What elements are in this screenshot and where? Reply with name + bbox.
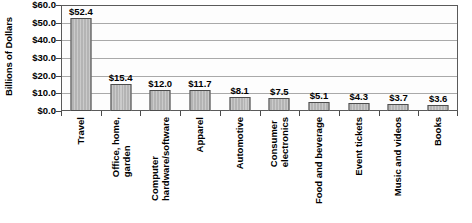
- bar-slot: $5.1: [299, 5, 339, 111]
- x-axis-category-label-line: Books: [432, 117, 443, 146]
- x-axis-tick-mark: [61, 111, 62, 116]
- x-axis-category-label-text: Event tickets: [353, 117, 364, 176]
- x-axis-category-label: Automotive: [220, 117, 260, 221]
- x-axis-category-label: Music and videos: [379, 117, 419, 221]
- x-axis-category-label-text: Food and beverage: [314, 117, 325, 204]
- bar-value-label: $52.4: [69, 6, 93, 17]
- bar-value-label: $3.7: [389, 92, 408, 103]
- bars-layer: $52.4$15.4$12.0$11.7$8.1$7.5$5.1$4.3$3.7…: [61, 5, 458, 111]
- x-axis-category-label-line: Travel: [75, 117, 86, 144]
- y-axis-tick-mark: [56, 111, 61, 112]
- bar[interactable]: [70, 18, 91, 111]
- x-axis-category-label-text: Music and videos: [393, 117, 404, 196]
- y-axis-tick-mark: [56, 93, 61, 94]
- x-axis-tick-mark: [299, 111, 300, 116]
- y-axis-tick-mark: [56, 5, 61, 6]
- bar-slot: $52.4: [61, 5, 101, 111]
- bar[interactable]: [269, 98, 290, 111]
- x-axis-category-label-text: Computerhardware/software: [150, 117, 171, 201]
- bar-slot: $4.3: [339, 5, 379, 111]
- bar-value-label: $5.1: [310, 90, 329, 101]
- x-axis-category-label-line: Computer: [149, 156, 160, 201]
- bar[interactable]: [150, 90, 171, 111]
- y-axis-tick-labels: $60.0$50.0$40.0$30.0$20.0$10.0$0.0: [14, 3, 58, 111]
- y-axis-title-text: Billions of Dollars: [3, 17, 14, 96]
- x-axis-tick-mark: [379, 111, 380, 116]
- x-axis-category-label: Office, home,garden: [101, 117, 141, 221]
- bar[interactable]: [348, 103, 369, 111]
- x-axis-category-label-text: Office, home,garden: [110, 117, 131, 177]
- y-axis-tick-label: $10.0: [32, 88, 56, 98]
- x-axis-category-label-text: Books: [433, 117, 444, 146]
- x-axis-category-label-line: garden: [121, 117, 132, 177]
- y-axis-tick-label: $30.0: [32, 53, 56, 63]
- bar-slot: $15.4: [101, 5, 141, 111]
- x-axis-category-label-line: Music and videos: [392, 117, 403, 196]
- bar-value-label: $15.4: [109, 72, 133, 83]
- x-axis-category-label: Books: [418, 117, 458, 221]
- x-axis-category-label-line: Consumer: [268, 120, 279, 167]
- bar-slot: $12.0: [140, 5, 180, 111]
- x-axis-category-label: Event tickets: [339, 117, 379, 221]
- x-axis-tick-mark: [180, 111, 181, 116]
- x-axis-category-label-text: Automotive: [234, 117, 245, 169]
- bar-slot: $11.7: [180, 5, 220, 111]
- y-axis-tick-label: $0.0: [38, 106, 57, 116]
- x-axis-category-label-line: hardware/software: [160, 117, 171, 201]
- bar-slot: $8.1: [220, 5, 260, 111]
- bar-slot: $3.6: [418, 5, 458, 111]
- y-axis-tick-mark: [56, 23, 61, 24]
- x-axis-category-label-line: electronics: [279, 117, 290, 167]
- x-axis-category-label-line: Automotive: [233, 117, 244, 169]
- x-axis-tick-mark: [418, 111, 419, 116]
- x-axis-tick-mark: [339, 111, 340, 116]
- y-axis-tick-mark: [56, 58, 61, 59]
- x-axis-category-label-line: Event tickets: [352, 117, 363, 176]
- x-axis-category-label-text: Apparel: [195, 117, 206, 152]
- bar-slot: $7.5: [260, 5, 300, 111]
- x-axis-category-label-line: Apparel: [194, 117, 205, 152]
- y-axis-tick-label: $60.0: [32, 0, 56, 10]
- x-axis-category-label: Apparel: [180, 117, 220, 221]
- x-axis-category-label-line: Office, home,: [109, 117, 120, 177]
- y-axis-tick-label: $20.0: [32, 71, 56, 81]
- bar-value-label: $11.7: [188, 78, 211, 89]
- y-axis-tick-mark: [56, 40, 61, 41]
- bar-value-label: $3.6: [429, 93, 448, 104]
- bar-chart: Billions of Dollars $60.0$50.0$40.0$30.0…: [0, 0, 472, 223]
- x-axis-tick-mark: [101, 111, 102, 116]
- x-axis-category-label: Consumerelectronics: [260, 117, 300, 221]
- bar[interactable]: [229, 97, 250, 111]
- bar-value-label: $4.3: [349, 91, 368, 102]
- x-axis-category-label: Computerhardware/software: [140, 117, 180, 221]
- bar-value-label: $12.0: [148, 78, 172, 89]
- bar-value-label: $7.5: [270, 86, 289, 97]
- x-axis-category-label-line: Food and beverage: [313, 117, 324, 204]
- x-axis-category-labels: TravelOffice, home,gardenComputerhardwar…: [61, 117, 458, 221]
- x-axis-tick-mark: [260, 111, 261, 116]
- bar-slot: $3.7: [379, 5, 419, 111]
- x-axis-tick-mark: [457, 111, 458, 116]
- x-axis-tick-mark: [220, 111, 221, 116]
- y-axis-tick-label: $50.0: [32, 18, 56, 28]
- bar[interactable]: [110, 84, 131, 111]
- bar-value-label: $8.1: [230, 85, 249, 96]
- y-axis-tick-mark: [56, 76, 61, 77]
- y-axis-tick-label: $40.0: [32, 35, 56, 45]
- bar[interactable]: [189, 90, 210, 111]
- x-axis-tick-mark: [140, 111, 141, 116]
- x-axis-category-label-text: Consumerelectronics: [269, 117, 290, 167]
- x-axis-category-label: Food and beverage: [299, 117, 339, 221]
- x-axis-category-label: Travel: [61, 117, 101, 221]
- bar[interactable]: [309, 102, 330, 111]
- x-axis-category-label-text: Travel: [76, 117, 87, 144]
